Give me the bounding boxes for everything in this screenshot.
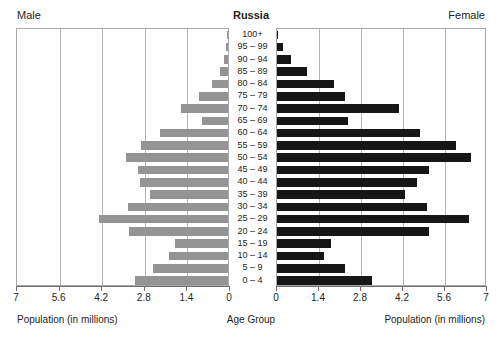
axis-tick-label: 5.6: [52, 292, 66, 303]
bar[interactable]: [99, 215, 228, 224]
age-group-label: 75 – 79: [229, 89, 276, 101]
bar[interactable]: [224, 55, 228, 64]
bar-row: [277, 66, 485, 78]
age-group-label: 35 – 39: [229, 188, 276, 200]
bar[interactable]: [126, 153, 228, 162]
bar-row: [17, 115, 228, 127]
age-group-label: 20 – 24: [229, 225, 276, 237]
age-group-label: 95 – 99: [229, 40, 276, 52]
bar-row: [277, 140, 485, 152]
bar-row: [277, 262, 485, 274]
axis-tick: [444, 286, 445, 291]
bar[interactable]: [220, 67, 228, 76]
age-group-label: 80 – 84: [229, 77, 276, 89]
age-group-axis: 100+95 – 9990 – 9485 – 8980 – 8475 – 797…: [229, 28, 276, 286]
axis-tick-label: 7: [483, 292, 489, 303]
axis-tick-label: 2.8: [137, 292, 151, 303]
bar[interactable]: [128, 203, 228, 212]
bar[interactable]: [277, 252, 324, 261]
age-group-label: 0 – 4: [229, 274, 276, 286]
axis-tick: [276, 286, 277, 291]
bar-row: [17, 78, 228, 90]
bar[interactable]: [160, 129, 228, 138]
bar-row: [17, 226, 228, 238]
axis-tick-label: 1.4: [311, 292, 325, 303]
bar[interactable]: [277, 190, 405, 199]
bar[interactable]: [277, 43, 283, 52]
bar-row: [277, 189, 485, 201]
bar-row: [17, 152, 228, 164]
axis-tick-label: 5.6: [437, 292, 451, 303]
axis-tick-label: 7: [13, 292, 19, 303]
bar[interactable]: [277, 203, 427, 212]
bar-row: [277, 29, 485, 41]
bar[interactable]: [277, 276, 372, 285]
bar[interactable]: [277, 166, 429, 175]
bar-row: [17, 140, 228, 152]
bar-row: [17, 66, 228, 78]
bar[interactable]: [277, 55, 291, 64]
bar[interactable]: [227, 31, 228, 40]
axis-tick: [144, 286, 145, 291]
bar-row: [17, 29, 228, 41]
bar[interactable]: [175, 239, 228, 248]
bar-row: [277, 164, 485, 176]
female-axis-caption: Population (in millions): [384, 313, 485, 327]
bar-row: [17, 176, 228, 188]
bar[interactable]: [277, 104, 399, 113]
bar[interactable]: [277, 129, 420, 138]
bar[interactable]: [212, 80, 228, 89]
axis-tick: [486, 286, 487, 291]
bar-row: [277, 103, 485, 115]
bar[interactable]: [150, 190, 228, 199]
bar[interactable]: [277, 92, 345, 101]
bar-row: [17, 238, 228, 250]
axis-tick-label: 0: [226, 292, 232, 303]
bar[interactable]: [138, 166, 228, 175]
age-group-label: 50 – 54: [229, 151, 276, 163]
bar[interactable]: [199, 92, 228, 101]
age-group-label: 85 – 89: [229, 65, 276, 77]
bar[interactable]: [277, 215, 469, 224]
bar[interactable]: [135, 276, 228, 285]
age-group-label: 60 – 64: [229, 126, 276, 138]
axis-tick-label: 2.8: [353, 292, 367, 303]
age-group-label: 5 – 9: [229, 261, 276, 273]
female-plot-area: [276, 28, 486, 286]
axis-tick: [360, 286, 361, 291]
bar-row: [277, 250, 485, 262]
bar-row: [277, 90, 485, 102]
bar[interactable]: [277, 117, 348, 126]
axis-tick-label: 1.4: [179, 292, 193, 303]
bar[interactable]: [277, 31, 278, 40]
bar[interactable]: [277, 153, 471, 162]
bar-row: [17, 213, 228, 225]
bar[interactable]: [277, 141, 456, 150]
bar[interactable]: [140, 178, 228, 187]
legend-label-female: Female: [448, 8, 485, 22]
age-group-label: 45 – 49: [229, 163, 276, 175]
bar[interactable]: [277, 178, 417, 187]
bar[interactable]: [277, 264, 345, 273]
bar[interactable]: [169, 252, 228, 261]
bar-row: [277, 226, 485, 238]
axis-tick: [229, 286, 230, 291]
male-bar-group: [17, 29, 228, 285]
bar[interactable]: [129, 227, 228, 236]
bar-row: [17, 103, 228, 115]
bar-row: [17, 262, 228, 274]
bar[interactable]: [277, 67, 307, 76]
bar-row: [277, 115, 485, 127]
bar[interactable]: [226, 43, 228, 52]
bar-row: [17, 90, 228, 102]
axis-tick-label: 4.2: [395, 292, 409, 303]
bar[interactable]: [153, 264, 228, 273]
bar[interactable]: [277, 227, 429, 236]
bar-row: [277, 54, 485, 66]
bar[interactable]: [277, 239, 331, 248]
bar[interactable]: [202, 117, 228, 126]
bar[interactable]: [181, 104, 228, 113]
bar[interactable]: [277, 80, 334, 89]
bar[interactable]: [141, 141, 228, 150]
bar-row: [277, 201, 485, 213]
